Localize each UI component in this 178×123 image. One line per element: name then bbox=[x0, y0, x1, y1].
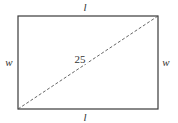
bottom-length-label: l bbox=[83, 111, 86, 123]
rectangle-diagram: l l w w 25 bbox=[0, 0, 178, 123]
diagonal-length-label: 25 bbox=[75, 53, 87, 65]
top-length-label: l bbox=[83, 1, 86, 13]
left-width-label: w bbox=[5, 56, 13, 68]
diagonal-line bbox=[18, 16, 158, 109]
right-width-label: w bbox=[162, 56, 170, 68]
